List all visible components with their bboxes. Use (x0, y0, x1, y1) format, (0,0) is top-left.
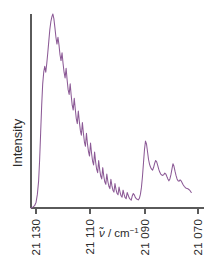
x-tick-label-2: 21 090 (139, 219, 151, 255)
x-axis-title: ν̃ / cm−1 (99, 226, 140, 239)
x-axis-title-text: ν̃ / cm−1 (99, 226, 140, 239)
x-tick-label-0: 21 130 (30, 219, 42, 255)
spectrum-figure: 21 13021 11021 09021 070 ν̃ / cm−1 Inten… (0, 0, 204, 268)
y-axis-title: Intensity (10, 118, 25, 167)
spectrum-trace-line (31, 14, 191, 208)
x-tick-label-1: 21 110 (84, 219, 96, 255)
x-axis-tick-marks (36, 208, 198, 214)
y-axis-title-text: Intensity (10, 118, 25, 167)
x-axis-separator: / cm (105, 227, 130, 239)
spectrum-plot-area: 21 13021 11021 09021 070 ν̃ / cm−1 Inten… (0, 0, 204, 268)
x-axis-exponent: −1 (130, 226, 140, 235)
x-tick-label-3: 21 070 (192, 219, 204, 255)
